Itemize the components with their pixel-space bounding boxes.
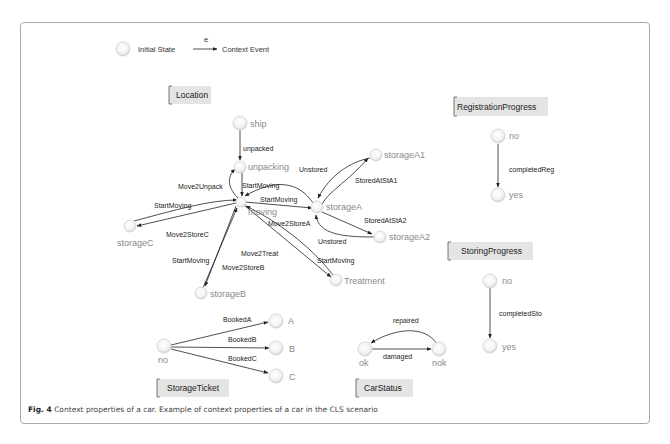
state-label-ticket-no: no: [158, 355, 168, 365]
state-node-treatment: [330, 274, 342, 286]
edge-label-bookedb: BookedB: [228, 336, 257, 343]
group-box-ticket: StorageTicket: [157, 379, 229, 397]
group-box-storing: StoringProgress: [448, 242, 533, 260]
state-node-storagea1: [370, 149, 382, 161]
state-label-storagea: storageA: [326, 202, 362, 212]
carstatus-diagram: ok nok repaired damaged: [358, 317, 447, 368]
legend-initial-state: Initial State: [138, 45, 175, 54]
state-label-storageb: storageB: [210, 289, 246, 299]
state-label-sto-yes: yes: [502, 342, 517, 352]
edge-label-bookeda: BookedA: [223, 316, 252, 323]
state-label-nok: nok: [432, 358, 447, 368]
edge-label-unstored: Unstored: [318, 238, 347, 245]
state-node-ship: [233, 116, 247, 130]
edge-label-unstored: Unstored: [299, 166, 328, 173]
state-node-storagec: [124, 220, 136, 232]
state-label-reg-no: no: [509, 131, 519, 141]
figure-number: Fig. 4: [28, 405, 52, 414]
state-node-ticket-a: [269, 314, 283, 328]
state-label-sto-no: no: [502, 276, 512, 286]
state-node-sto-no: [483, 274, 497, 288]
state-label-moving: moving: [248, 207, 277, 217]
edge-label-move2storec: Move2StoreC: [166, 231, 209, 238]
state-diagram: Initial State e Context Event Location R…: [0, 0, 670, 444]
edge-label-startmoving: StartMoving: [260, 196, 297, 204]
edge-label-storedatsta1: StoredAtStA1: [355, 177, 398, 184]
legend-context-event: Context Event: [222, 45, 270, 54]
edge-label-move2unpack: Move2Unpack: [178, 183, 223, 191]
state-node-ticket-b: [269, 341, 283, 355]
state-label-treatment: Treatment: [344, 276, 385, 286]
initial-state-icon: [116, 42, 130, 56]
edge-label-startmoving: StartMoving: [154, 202, 191, 210]
group-title-ticket: StorageTicket: [167, 383, 220, 393]
state-node-storagea2: [374, 231, 386, 243]
registration-diagram: no completedReg yes: [491, 129, 554, 202]
state-label-unpacking: unpacking: [248, 162, 289, 172]
state-node-nok: [432, 342, 446, 356]
group-box-location: Location: [169, 86, 211, 104]
legend-event-symbol: e: [204, 35, 208, 44]
state-label-ticket-a: A: [288, 316, 294, 326]
group-title-carstatus: CarStatus: [364, 383, 402, 393]
edge-label-move2storeb: Move2StoreB: [222, 264, 265, 271]
edge-label-startmoving: StartMoving: [242, 182, 279, 190]
edge-label-move2treat: Move2Treat: [241, 250, 278, 257]
state-label-storagec: storageC: [117, 238, 154, 248]
state-label-reg-yes: yes: [509, 190, 524, 200]
state-node-storageb: [195, 287, 207, 299]
caption-text: Context properties of a car. Example of …: [52, 405, 378, 414]
edge-label-startmoving: StartMoving: [317, 257, 354, 265]
state-node-unpacking: [234, 161, 246, 173]
group-title-location: Location: [176, 90, 208, 100]
edge-label-repaired: repaired: [393, 317, 419, 325]
state-node-ticket-c: [269, 369, 283, 383]
edge-label-storedatsta2: StoredAtStA2: [364, 217, 407, 224]
state-node-reg-yes: [491, 188, 505, 202]
state-node-storagea: [311, 201, 323, 213]
group-title-storing: StoringProgress: [461, 246, 522, 256]
edge-label-completedreg: completedReg: [509, 166, 554, 174]
ticket-diagram: no A B C BookedA BookedB BookedC: [157, 314, 296, 383]
edge-label-startmoving: StartMoving: [172, 257, 209, 265]
group-box-carstatus: CarStatus: [356, 379, 413, 397]
figure-caption: Fig. 4 Context properties of a car. Exam…: [28, 405, 378, 414]
edge-label-unpacked: unpacked: [243, 145, 273, 153]
state-label-ticket-c: C: [289, 372, 296, 382]
state-node-moving: [236, 197, 246, 207]
state-label-storagea2: storageA2: [389, 232, 430, 242]
state-node-ticket-no: [157, 339, 171, 353]
group-box-registration: RegistrationProgress: [454, 97, 548, 116]
edge-label-bookedc: BookedC: [228, 355, 257, 362]
state-node-sto-yes: [483, 339, 497, 353]
edge-label-damaged: damaged: [383, 353, 412, 361]
storing-diagram: no completedSto yes: [483, 274, 542, 353]
state-label-ticket-b: B: [289, 344, 295, 354]
edge-label-move2storea: Move2StoreA: [268, 220, 311, 227]
legend: Initial State e Context Event: [116, 35, 270, 56]
state-label-ok: ok: [359, 358, 369, 368]
state-node-reg-no: [491, 129, 505, 143]
state-label-ship: ship: [250, 119, 267, 129]
state-node-ok: [358, 342, 372, 356]
edge-label-completedsto: completedSto: [499, 310, 542, 318]
group-title-registration: RegistrationProgress: [457, 102, 536, 112]
state-label-storagea1: storageA1: [384, 150, 425, 160]
